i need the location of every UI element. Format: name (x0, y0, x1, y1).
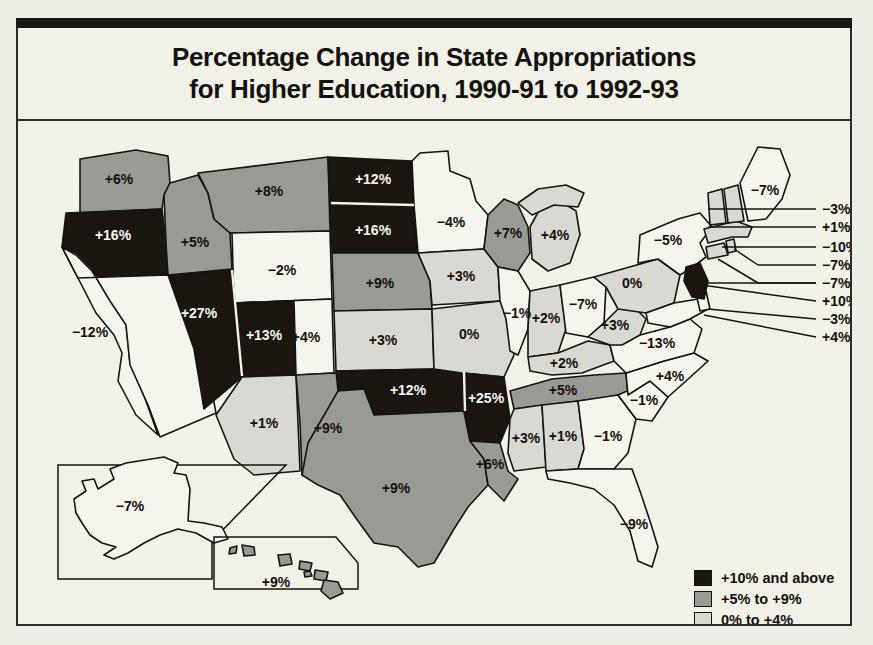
label-AK: −7% (116, 498, 145, 514)
legend-item-dark: +10% and above (694, 567, 850, 588)
label-AR: +25% (468, 390, 505, 406)
legend-swatch-light (694, 612, 712, 625)
callout-MA: −10% (822, 239, 850, 255)
legend-swatch-dark (694, 570, 712, 586)
map-legend: +10% and above +5% to +9% 0% to +4% Decr… (694, 567, 850, 624)
callout-CT: −7% (822, 275, 850, 291)
label-NM: +9% (314, 420, 343, 436)
label-GA: −1% (594, 428, 623, 444)
legend-label-mid: +5% to +9% (721, 591, 802, 607)
map-figure: Percentage Change in State Appropriation… (0, 0, 873, 645)
callout-MD: +4% (822, 329, 850, 345)
label-NE: +9% (366, 275, 395, 291)
top-rule (16, 18, 852, 28)
title-line-1: Percentage Change in State Appropriation… (172, 42, 696, 73)
label-WY: −2% (268, 262, 297, 278)
label-HI: +9% (262, 574, 291, 590)
label-VA: −13% (639, 335, 676, 351)
label-MO: 0% (459, 326, 480, 342)
hawaii-inset: +9% (214, 537, 358, 599)
label-AL: +1% (549, 428, 578, 444)
label-NV: +27% (181, 305, 218, 321)
map-area: .st{stroke:#17130f;stroke-width:1.6;stro… (18, 123, 850, 624)
callout-NH: −3% (822, 201, 850, 217)
label-SD: +16% (355, 222, 392, 238)
label-IN: +2% (532, 310, 561, 326)
label-WI: +7% (494, 225, 523, 241)
label-CA: −12% (72, 324, 109, 340)
label-MT: +8% (255, 183, 284, 199)
label-TX: +9% (382, 480, 411, 496)
label-IL: −1% (503, 305, 532, 321)
label-MS: +3% (512, 430, 541, 446)
figure-title: Percentage Change in State Appropriation… (18, 28, 850, 121)
legend-label-dark: +10% and above (721, 570, 834, 586)
callout-RI: −7% (822, 257, 850, 273)
label-OH: −7% (569, 296, 598, 312)
label-NY: −5% (654, 232, 683, 248)
label-ND: +12% (355, 171, 392, 187)
label-WV: +3% (601, 317, 630, 333)
label-AZ: +1% (250, 415, 279, 431)
legend-swatch-mid (694, 591, 712, 607)
label-OR: +16% (95, 227, 132, 243)
alaska-inset: −7% (58, 457, 286, 579)
label-ME: −7% (751, 182, 780, 198)
label-NC: +4% (656, 368, 685, 384)
title-line-2: for Higher Education, 1990-91 to 1992-93 (189, 74, 678, 105)
legend-label-light: 0% to +4% (721, 612, 793, 625)
label-ID: +5% (181, 234, 210, 250)
callout-NJ: +10% (822, 293, 850, 309)
label-SC: −1% (630, 392, 659, 408)
label-WA: +6% (105, 171, 134, 187)
label-CO: +4% (292, 329, 321, 345)
label-MN: −4% (437, 214, 466, 230)
label-IA: +3% (447, 268, 476, 284)
legend-item-light: 0% to +4% (694, 609, 850, 624)
callout-DE: −3% (822, 311, 850, 327)
label-TN: +5% (549, 382, 578, 398)
us-choropleth-map: .st{stroke:#17130f;stroke-width:1.6;stro… (18, 123, 850, 624)
legend-item-mid: +5% to +9% (694, 588, 850, 609)
label-KS: +3% (369, 332, 398, 348)
label-PA: 0% (622, 275, 643, 291)
label-KY: +2% (550, 355, 579, 371)
label-OK: +12% (390, 382, 427, 398)
callout-VT: +1% (822, 219, 850, 235)
label-FL: −9% (620, 516, 649, 532)
label-UT: +13% (246, 327, 283, 343)
label-MI: +4% (541, 227, 570, 243)
label-LA: +6% (476, 456, 505, 472)
